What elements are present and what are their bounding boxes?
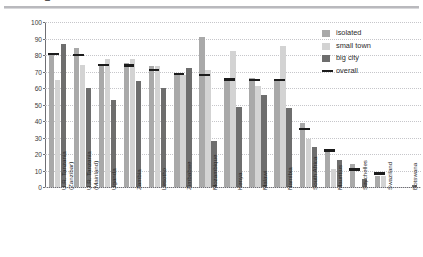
y-tick-label: 40: [35, 118, 42, 125]
bar-isolated: [325, 151, 330, 187]
bar-isolated: [199, 37, 204, 187]
overall-marker: [149, 69, 160, 71]
y-tick-label: 0: [38, 184, 42, 191]
bar-small-town: [280, 46, 285, 187]
overall-marker: [324, 149, 335, 151]
y-tick-label: 30: [35, 134, 42, 141]
chart-page: Figure: Percentage of students with acce…: [0, 0, 423, 257]
bar-group: [99, 22, 116, 187]
legend-item-isolated: isolated: [322, 27, 418, 40]
y-tick-label: 100: [31, 19, 42, 26]
overall-marker: [199, 74, 210, 76]
x-axis-labels: U.R. Tanzania (Zanzibar)U.R. Tanzania (M…: [45, 190, 421, 256]
x-axis-label: Mauritius: [336, 165, 343, 190]
x-axis-label: Namibia: [286, 167, 293, 190]
legend-swatch-small-town: [322, 43, 330, 50]
bar-group: [249, 22, 266, 187]
bar-small-town: [130, 59, 135, 187]
legend-swatch-big-city: [322, 55, 330, 62]
legend-label-big-city: big city: [336, 53, 359, 62]
header-rule-shadow: [4, 8, 419, 9]
x-axis-label: South Africa: [311, 157, 318, 190]
bar-small-town: [205, 70, 210, 187]
legend-label-overall: overall: [336, 66, 358, 75]
x-axis-label: Zambia: [135, 169, 142, 190]
legend-swatch-isolated: [322, 30, 330, 37]
y-tick-label: 60: [35, 85, 42, 92]
y-tick-label: 70: [35, 68, 42, 75]
legend-item-overall: overall: [322, 65, 418, 78]
legend-label-small-town: small town: [336, 41, 371, 50]
overall-marker: [299, 128, 310, 130]
x-axis-label: Swaziland: [386, 162, 393, 190]
bar-isolated: [149, 66, 154, 187]
chart-legend: isolated small town big city overall: [322, 27, 418, 77]
legend-item-small-town: small town: [322, 40, 418, 53]
y-tick-label: 50: [35, 101, 42, 108]
bar-small-town: [255, 86, 260, 187]
x-axis-label: Lesotho: [160, 168, 167, 190]
bar-isolated: [49, 53, 54, 187]
bar-isolated: [99, 65, 104, 187]
x-axis-label: Malawi: [261, 171, 268, 190]
overall-marker: [349, 168, 360, 170]
x-axis-label: Mozambique: [211, 155, 218, 190]
legend-swatch-overall: [322, 70, 333, 73]
x-axis-label: U.R. Tanzania (Zanzibar): [60, 151, 74, 190]
x-axis-label: Botswana: [411, 163, 418, 190]
x-axis-label: U.R. Tanzania (Mainland): [85, 151, 99, 190]
overall-marker: [274, 79, 285, 81]
bar-small-town: [230, 51, 235, 187]
bar-group: [274, 22, 291, 187]
overall-marker: [73, 54, 84, 56]
overall-marker: [249, 79, 260, 81]
overall-marker: [48, 53, 59, 55]
y-tick-label: 90: [35, 35, 42, 42]
bar-isolated: [224, 80, 229, 187]
overall-marker: [98, 64, 109, 66]
x-axis-label: Uganda: [110, 168, 117, 190]
overall-marker: [224, 78, 235, 80]
legend-label-isolated: isolated: [336, 28, 361, 37]
overall-marker: [374, 172, 385, 174]
x-axis-label: Kenya: [236, 172, 243, 190]
overall-marker: [124, 64, 135, 66]
legend-item-big-city: big city: [322, 52, 418, 65]
bar-isolated: [124, 63, 129, 187]
bar-isolated: [274, 79, 279, 187]
bar-isolated: [74, 48, 79, 187]
y-tick-label: 10: [35, 167, 42, 174]
bar-isolated: [375, 176, 380, 187]
y-tick-label: 80: [35, 52, 42, 59]
y-tick-label: 20: [35, 151, 42, 158]
bar-group: [149, 22, 166, 187]
bar-isolated: [174, 74, 179, 187]
y-tick-mark: [43, 187, 46, 188]
x-axis-label: Seychelles: [361, 160, 368, 190]
bar-isolated: [300, 123, 305, 187]
overall-marker: [174, 73, 185, 75]
bar-isolated: [249, 78, 254, 187]
x-axis-label: Zimbabwe: [185, 161, 192, 190]
bar-group: [124, 22, 141, 187]
bar-group: [224, 22, 241, 187]
